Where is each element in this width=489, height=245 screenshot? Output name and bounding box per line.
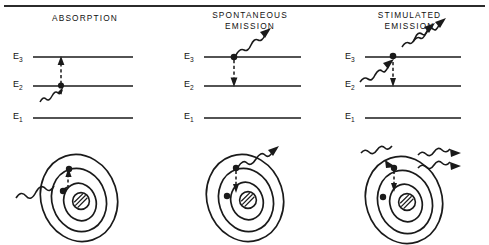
atom-stimulated: [330, 0, 489, 245]
atom-incoming-photon-arrowhead: [385, 160, 396, 168]
panel-stimulated-emission: STIMULATED EMISSION E3 E2 E1: [330, 0, 489, 245]
nucleus: [240, 192, 257, 209]
atom-incoming-photon-wave: [361, 146, 392, 154]
nucleus: [73, 193, 90, 210]
atom-emitted-photon-arrowhead-1: [450, 149, 461, 157]
atom-emitted-photon-arrowhead: [268, 146, 279, 156]
panel-spontaneous-emission: SPONTANEOUS EMISSION E3 E2 E1: [170, 0, 330, 245]
atom-emitted-photon-wave-2: [418, 161, 450, 168]
atom-spontaneous: [170, 0, 330, 245]
atom-absorption: [0, 0, 170, 245]
panel-absorption: ABSORPTION E3 E2 E1: [0, 0, 170, 245]
electron-inner-dot: [224, 193, 230, 199]
electron-inner-dot: [380, 194, 386, 200]
atom-incoming-photon-wave: [16, 186, 54, 198]
atom-emitted-photon-wave-1: [418, 148, 450, 155]
atom-emitted-photon-arrowhead-2: [450, 162, 461, 170]
nucleus: [399, 194, 416, 211]
